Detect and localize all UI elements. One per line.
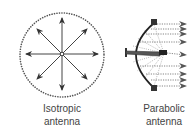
isotropic-label-line2: antenna: [27, 115, 97, 128]
parabolic-label-line1: Parabolic: [129, 102, 194, 115]
parabolic-label-line2: antenna: [129, 115, 194, 128]
isotropic-label-line1: Isotropic: [27, 102, 97, 115]
parabolic-antenna-label: Parabolic antenna: [129, 102, 194, 128]
feed-horn: [159, 50, 167, 55]
isotropic-antenna-icon: [20, 13, 104, 97]
source-point: [60, 52, 64, 56]
parabolic-antenna-icon: [125, 19, 186, 91]
isotropic-antenna-label: Isotropic antenna: [27, 102, 97, 128]
